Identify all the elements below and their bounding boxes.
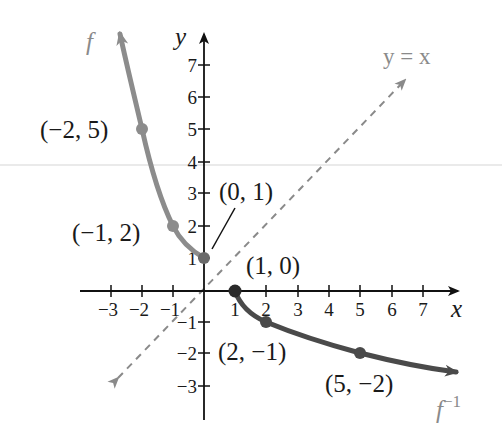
leader-line <box>212 208 235 249</box>
point-0-1 <box>198 252 210 264</box>
point-label: (1, 0) <box>246 252 300 280</box>
inverse-function-graph: −3 −2 −1 1 2 3 4 5 6 7 7 6 5 4 3 2 1 −1 … <box>0 0 502 445</box>
f-curve-label: f <box>86 28 96 55</box>
x-tick-label: 3 <box>293 299 303 320</box>
x-tick-label: 6 <box>387 299 397 320</box>
y-tick-label: 4 <box>188 152 198 173</box>
y-tick-label: 7 <box>188 55 198 76</box>
x-axis-label: x <box>450 295 462 322</box>
x-tick-label: −2 <box>129 299 149 320</box>
identity-line <box>118 80 405 378</box>
point-label: (5, −2) <box>325 370 393 398</box>
x-tick-label: 4 <box>324 299 334 320</box>
identity-line-label: y = x <box>383 44 431 69</box>
point-label: (−1, 2) <box>72 219 140 247</box>
point-label: (−2, 5) <box>40 116 108 144</box>
y-tick-label: 2 <box>188 216 198 237</box>
y-tick-label: 6 <box>188 87 198 108</box>
y-tick-label: 5 <box>188 119 198 140</box>
y-axis <box>198 34 210 420</box>
y-axis-label: y <box>172 23 187 50</box>
point-neg2-5 <box>136 123 148 135</box>
point-1-0 <box>229 285 242 298</box>
f-inverse-curve-label: f−1 <box>436 392 461 423</box>
x-tick-label: −3 <box>98 299 118 320</box>
y-tick-label: −1 <box>177 312 197 333</box>
point-label: (0, 1) <box>219 178 273 206</box>
point-2-neg1 <box>260 316 272 328</box>
x-axis <box>80 285 458 297</box>
f-inverse-superscript: −1 <box>443 392 461 411</box>
point-5-neg2 <box>354 347 366 359</box>
y-tick-label: 3 <box>188 183 198 204</box>
x-tick-label: 7 <box>418 299 428 320</box>
point-neg1-2 <box>167 220 179 232</box>
y-tick-label: −3 <box>177 376 197 397</box>
y-tick-label: −2 <box>177 343 197 364</box>
point-label: (2, −1) <box>218 338 286 366</box>
x-tick-label: 5 <box>355 299 365 320</box>
